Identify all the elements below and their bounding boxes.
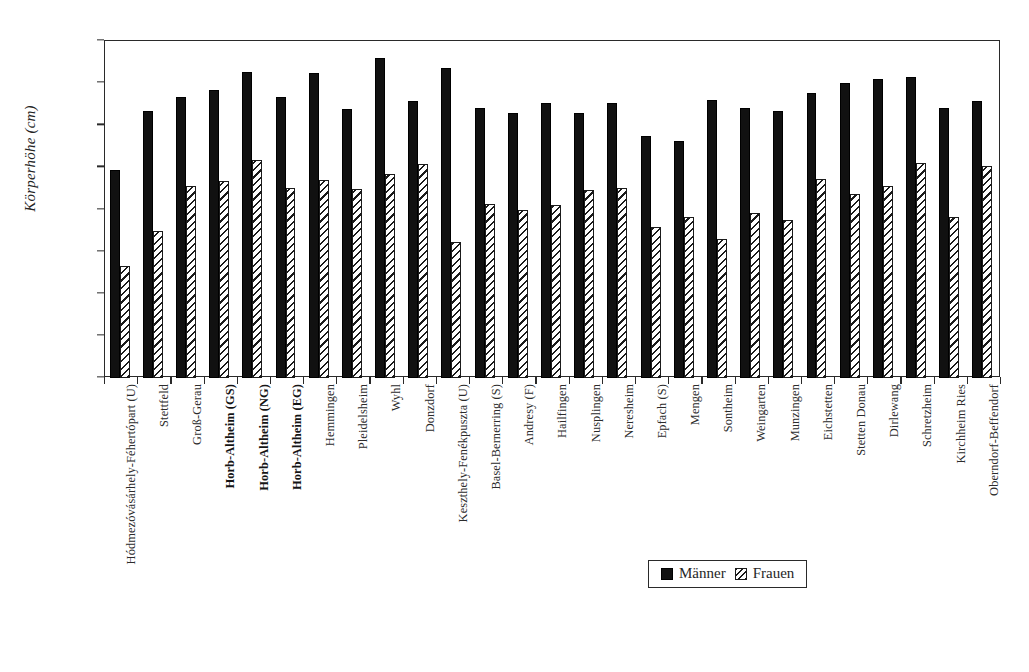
x-axis-label: Hailfingen: [555, 384, 570, 438]
x-tick-mark: [104, 377, 105, 384]
y-tick-mark: [97, 376, 104, 377]
x-axis-label: Horb-Altheim (NG): [257, 384, 272, 491]
bar-maenner: [740, 108, 750, 378]
x-tick-mark: [336, 377, 337, 384]
x-axis-label: Epfach (S): [655, 384, 670, 438]
bar-maenner: [541, 103, 551, 378]
bar-maenner: [408, 101, 418, 378]
x-axis-label: Hódmezóvásárhely-Féhertópart (U): [124, 384, 139, 564]
y-tick-mark: [97, 208, 104, 209]
bar-maenner: [110, 170, 120, 378]
x-tick-mark: [403, 377, 404, 384]
x-tick-mark: [436, 377, 437, 384]
x-axis-label: Eichstetten: [821, 384, 836, 440]
bar-maenner: [807, 93, 817, 378]
x-tick-mark: [668, 377, 669, 384]
bar-frauen: [518, 210, 528, 378]
x-axis-label: Oberndorf-Beffendorf: [987, 384, 1002, 496]
x-axis-label: Neresheim: [622, 384, 637, 439]
legend-label-frauen: Frauen: [753, 565, 795, 582]
bar-frauen: [750, 213, 760, 378]
bar-frauen: [319, 180, 329, 378]
x-axis-label: Keszthely-Fenékpuszta (U): [456, 384, 471, 522]
legend-item-frauen: Frauen: [735, 565, 795, 582]
x-axis-label: Horb-Altheim (EG): [290, 384, 305, 490]
x-axis-label: Schretzheim: [920, 384, 935, 447]
bar-frauen: [584, 190, 594, 378]
bar-frauen: [717, 239, 727, 378]
bar-maenner: [574, 113, 584, 378]
bar-frauen: [485, 204, 495, 378]
bar-frauen: [816, 179, 826, 378]
bar-frauen: [982, 166, 992, 378]
bar-maenner: [906, 77, 916, 378]
legend-item-maenner: Männer: [661, 565, 726, 582]
x-axis-label: Weingarten: [754, 384, 769, 442]
bar-maenner: [840, 83, 850, 378]
bar-frauen: [219, 181, 229, 378]
legend-label-maenner: Männer: [679, 565, 726, 582]
bar-maenner: [939, 108, 949, 378]
y-tick-mark: [97, 124, 104, 125]
x-tick-mark: [900, 377, 901, 384]
x-axis-label: Dirlewang: [887, 384, 902, 437]
y-tick-mark: [97, 166, 104, 167]
bar-maenner: [309, 73, 319, 378]
x-tick-mark: [369, 377, 370, 384]
y-tick-mark: [97, 334, 104, 335]
bar-maenner: [441, 68, 451, 378]
bar-frauen: [385, 174, 395, 378]
plot-area: [104, 40, 1000, 377]
x-tick-mark: [867, 377, 868, 384]
x-tick-mark: [237, 377, 238, 384]
x-tick-mark: [569, 377, 570, 384]
x-tick-mark: [701, 377, 702, 384]
bar-maenner: [242, 72, 252, 378]
bar-maenner: [707, 100, 717, 378]
chart-legend: Männer Frauen: [648, 560, 807, 588]
bar-frauen: [451, 242, 461, 378]
x-axis-label: Stettfeld: [157, 384, 172, 427]
bar-frauen: [949, 217, 959, 378]
x-tick-mark: [204, 377, 205, 384]
bar-maenner: [276, 97, 286, 378]
x-axis-label: Nusplingen: [589, 384, 604, 442]
bar-frauen: [883, 186, 893, 378]
x-tick-mark: [303, 377, 304, 384]
x-axis-label: Horb-Altheim (GS): [223, 384, 238, 489]
x-tick-mark: [535, 377, 536, 384]
x-axis-label: Mengen: [688, 384, 703, 425]
bar-maenner: [674, 141, 684, 378]
bar-maenner: [873, 79, 883, 378]
bar-maenner: [342, 109, 352, 378]
bar-frauen: [120, 266, 130, 378]
bar-maenner: [143, 111, 153, 378]
bar-frauen: [186, 186, 196, 378]
bar-maenner: [607, 103, 617, 378]
bar-frauen: [153, 231, 163, 378]
bar-frauen: [617, 188, 627, 378]
x-axis-label: Andresy (F): [522, 384, 537, 445]
x-tick-mark: [934, 377, 935, 384]
bar-frauen: [551, 205, 561, 378]
x-tick-mark: [502, 377, 503, 384]
x-axis-label: Wyhl: [389, 384, 404, 411]
bar-maenner: [375, 58, 385, 378]
chart-figure: Körperhöhe (cm) 180175170165160155150145…: [0, 0, 1029, 672]
bar-maenner: [209, 90, 219, 378]
x-axis-label: Stetten Donau: [854, 384, 869, 456]
x-tick-mark: [768, 377, 769, 384]
bar-frauen: [352, 189, 362, 378]
bar-maenner: [508, 113, 518, 378]
x-tick-mark: [735, 377, 736, 384]
x-axis-label: Hemmingen: [323, 384, 338, 446]
x-tick-mark: [270, 377, 271, 384]
y-tick-mark: [97, 39, 104, 40]
bar-frauen: [783, 220, 793, 378]
x-tick-mark: [602, 377, 603, 384]
y-tick-mark: [97, 81, 104, 82]
bar-maenner: [773, 111, 783, 378]
bar-maenner: [972, 101, 982, 378]
x-axis-label: Sontheim: [721, 384, 736, 432]
x-axis-label: Donzdorf: [423, 384, 438, 432]
